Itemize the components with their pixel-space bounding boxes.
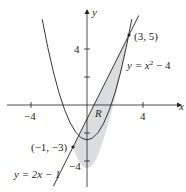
line-curve <box>53 15 138 186</box>
y-axis-label: y <box>91 6 97 18</box>
point-label-lower: (−1, −3) <box>31 141 68 154</box>
parabola-label-suffix: − 4 <box>153 59 171 71</box>
region-diagram: y x −4 4 4 −4 (3, 5) (−1, −3) R y = x2 −… <box>0 0 186 192</box>
line-label: y = 2x − 1 <box>13 168 61 180</box>
y-axis-arrow-icon <box>85 9 90 14</box>
region-label: R <box>94 107 102 119</box>
region-r-shading <box>73 35 129 168</box>
intersection-point-lower <box>71 145 74 148</box>
y-tick-label-4: 4 <box>74 43 80 55</box>
y-tick-label-neg4: −4 <box>69 160 81 172</box>
point-label-upper: (3, 5) <box>134 30 158 43</box>
x-axis-label: x <box>178 100 184 112</box>
parabola-label-prefix: y = x <box>126 59 150 71</box>
x-tick-label-neg4: −4 <box>24 110 36 122</box>
parabola-label: y = x2 − 4 <box>126 59 171 71</box>
x-tick-label-4: 4 <box>140 110 146 122</box>
intersection-point-upper <box>127 33 130 36</box>
